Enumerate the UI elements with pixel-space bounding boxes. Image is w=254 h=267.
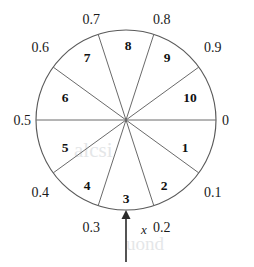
sector-number-3: 3 — [123, 191, 130, 206]
sector-number-10: 10 — [183, 90, 197, 105]
watermark-line-1: alcsi — [74, 138, 113, 162]
sector-number-6: 6 — [62, 90, 69, 105]
pointer-label-x: x — [140, 222, 147, 237]
sector-number-2: 2 — [161, 178, 168, 193]
sector-divider-0.7 — [98, 34, 126, 120]
scale-tick-label-tick-0p9: 0.9 — [204, 40, 222, 55]
sector-number-5: 5 — [62, 140, 69, 155]
sector-divider-0.2 — [126, 120, 154, 206]
sector-number-9: 9 — [164, 50, 171, 65]
figure-container: alcsi uond 00.10.20.30.40.50.60.70.80.9 … — [0, 0, 254, 267]
scale-tick-label-tick-0p6: 0.6 — [32, 40, 50, 55]
pointer-arrow-head-icon — [122, 210, 131, 219]
sector-number-8: 8 — [125, 38, 132, 53]
sector-number-4: 4 — [84, 178, 91, 193]
sector-number-7: 7 — [84, 50, 91, 65]
spinner-diagram: alcsi uond 00.10.20.30.40.50.60.70.80.9 … — [0, 0, 254, 267]
scale-tick-label-tick-0p4: 0.4 — [32, 185, 50, 200]
scale-tick-label-tick-0p8: 0.8 — [153, 12, 171, 27]
scale-tick-label-tick-0: 0 — [222, 113, 229, 128]
sector-number-1: 1 — [182, 140, 189, 155]
scale-tick-label-tick-0p1: 0.1 — [204, 185, 222, 200]
scale-tick-label-tick-0p2: 0.2 — [153, 220, 171, 235]
scale-tick-label-tick-0p5: 0.5 — [14, 113, 32, 128]
scale-tick-label-tick-0p3: 0.3 — [83, 220, 101, 235]
sector-divider-group — [36, 34, 216, 205]
scale-tick-label-tick-0p7: 0.7 — [83, 12, 101, 27]
